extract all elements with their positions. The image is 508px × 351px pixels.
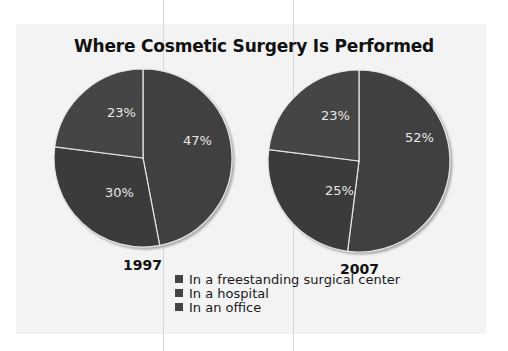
pie-slice xyxy=(143,69,232,245)
slice-percent-label: 23% xyxy=(321,108,350,123)
pie-slice xyxy=(268,150,359,252)
slice-percent-label: 23% xyxy=(107,105,136,120)
legend-label: In a freestanding surgical center xyxy=(189,272,400,287)
legend-item-hospital: In a hospital xyxy=(175,286,400,300)
slice-percent-label: 47% xyxy=(183,133,212,148)
pie-slice xyxy=(348,70,450,252)
legend-label: In an office xyxy=(189,300,261,315)
pie-2007 xyxy=(268,70,450,252)
legend-label: In a hospital xyxy=(189,286,269,301)
legend-item-freestanding: In a freestanding surgical center xyxy=(175,272,400,286)
legend-swatch xyxy=(175,289,183,297)
slice-percent-label: 52% xyxy=(405,130,434,145)
legend: In a freestanding surgical center In a h… xyxy=(175,272,400,314)
pie-1997 xyxy=(54,69,232,247)
slice-percent-label: 30% xyxy=(105,185,134,200)
legend-swatch xyxy=(175,275,183,283)
legend-swatch xyxy=(175,303,183,311)
legend-item-office: In an office xyxy=(175,300,400,314)
year-label-1997: 1997 xyxy=(123,257,162,273)
slice-percent-label: 25% xyxy=(325,183,354,198)
